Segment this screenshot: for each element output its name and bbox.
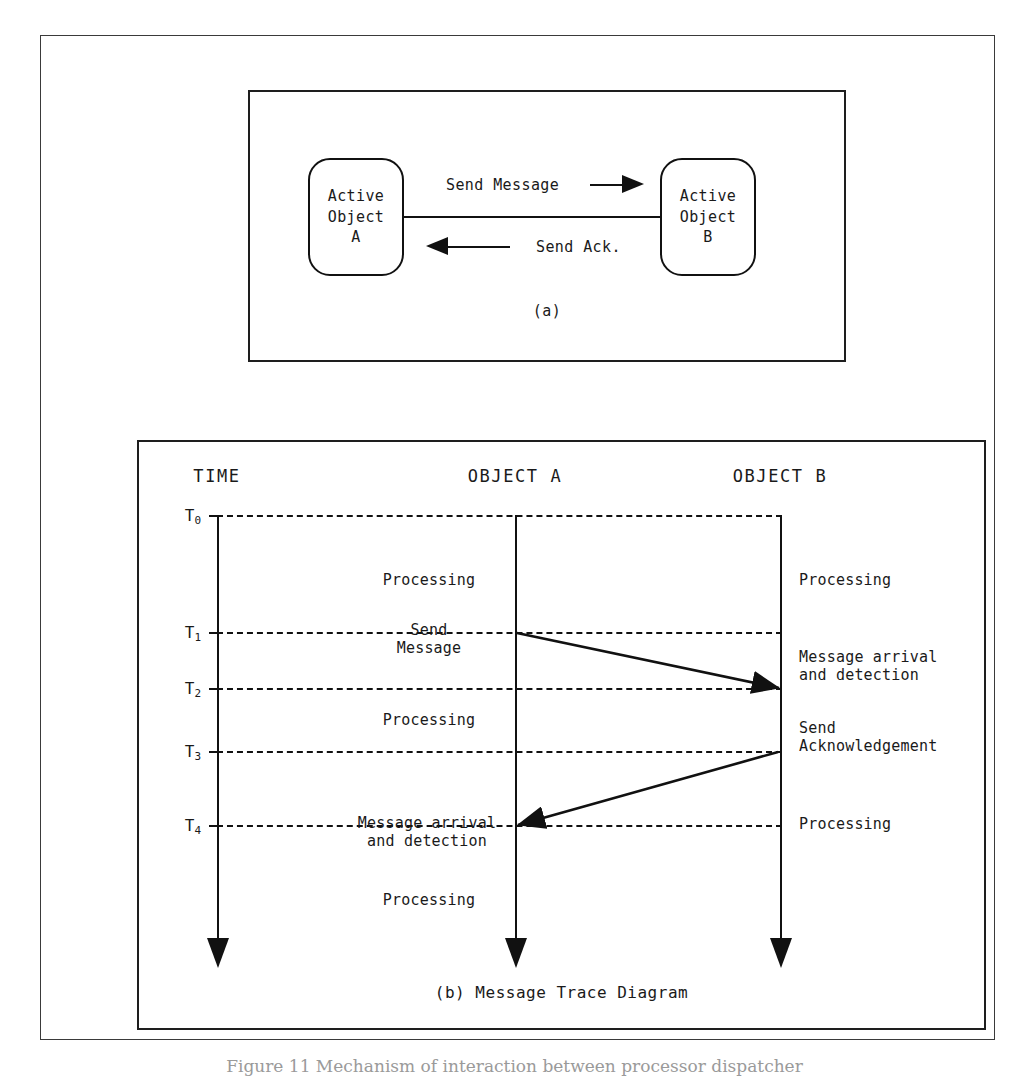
time-label-t1-index: 1: [194, 631, 201, 644]
note-object-a-message-arrival: Message arrival and detection: [358, 815, 496, 850]
figure-outer-frame: Active Object A Active Object B Send Mes…: [40, 35, 995, 1040]
time-label-t1-base: T: [185, 623, 195, 642]
time-label-t0-index: 0: [194, 514, 201, 527]
time-axis-lifeline: [217, 515, 219, 940]
active-object-b-line-3: B: [703, 227, 712, 248]
time-tick-t4: [209, 825, 222, 827]
column-header-object-b: OBJECT B: [733, 466, 828, 486]
time-label-t4-base: T: [185, 816, 195, 835]
time-label-t4-index: 4: [194, 824, 201, 837]
arrow-right-icon: [622, 175, 644, 193]
send-ack-label: Send Ack.: [536, 238, 621, 256]
time-row-t2: [217, 688, 782, 690]
column-header-object-a: OBJECT A: [468, 466, 563, 486]
time-row-t3: [217, 751, 782, 753]
send-acknowledgement-arrow: [518, 752, 778, 825]
note-object-a-processing-2: Processing: [383, 712, 475, 730]
active-object-b-line-2: Object: [680, 207, 737, 228]
panel-b-message-trace: TIME OBJECT A OBJECT B T0 T1 T2 T3 T4: [137, 440, 986, 1030]
note-object-a-processing-3: Processing: [383, 892, 475, 910]
panel-b-caption: (b) Message Trace Diagram: [139, 983, 984, 1002]
note-object-a-send-message: Send Message: [397, 622, 462, 657]
active-object-a-line-2: Object: [328, 207, 385, 228]
active-object-a-line-3: A: [351, 227, 360, 248]
note-object-b-message-arrival: Message arrival and detection: [799, 649, 937, 684]
send-ack-arrow-shaft: [448, 246, 510, 248]
time-label-t0: T0: [185, 506, 201, 525]
time-axis-arrow-icon: [207, 938, 229, 968]
send-message-arrow: [517, 633, 779, 688]
object-b-arrow-icon: [770, 938, 792, 968]
figure-caption: Figure 11 Mechanism of interaction betwe…: [0, 1056, 1029, 1076]
note-object-b-processing-2: Processing: [799, 816, 891, 834]
active-object-b-box[interactable]: Active Object B: [660, 158, 756, 276]
time-label-t3-index: 3: [194, 750, 201, 763]
column-header-time: TIME: [193, 466, 240, 486]
object-a-arrow-icon: [505, 938, 527, 968]
time-tick-t1: [209, 632, 222, 634]
object-a-lifeline: [515, 515, 517, 940]
panel-a-caption: (a): [250, 302, 844, 320]
active-object-a-box[interactable]: Active Object A: [308, 158, 404, 276]
time-row-t0: [217, 515, 782, 517]
arrow-left-icon: [426, 237, 448, 255]
time-label-t2-index: 2: [194, 687, 201, 700]
time-tick-t3: [209, 751, 222, 753]
time-row-t1: [217, 632, 782, 634]
panel-a-object-interaction: Active Object A Active Object B Send Mes…: [248, 90, 846, 362]
note-object-a-processing-1: Processing: [383, 572, 475, 590]
time-label-t3: T3: [185, 742, 201, 761]
note-object-b-processing-1: Processing: [799, 572, 891, 590]
time-label-t2-base: T: [185, 679, 195, 698]
time-row-t4: [217, 825, 782, 827]
time-label-t0-base: T: [185, 506, 195, 525]
active-object-b-line-1: Active: [680, 186, 737, 207]
time-label-t4: T4: [185, 816, 201, 835]
time-label-t3-base: T: [185, 742, 195, 761]
time-label-t1: T1: [185, 623, 201, 642]
active-object-a-line-1: Active: [328, 186, 385, 207]
time-tick-t0: [209, 515, 222, 517]
note-object-b-send-acknowledgement: Send Acknowledgement: [799, 720, 937, 755]
send-message-label: Send Message: [446, 176, 559, 194]
time-tick-t2: [209, 688, 222, 690]
time-label-t2: T2: [185, 679, 201, 698]
object-b-lifeline: [780, 515, 782, 940]
object-connector-line: [404, 216, 660, 218]
send-message-arrow-shaft: [590, 184, 626, 186]
